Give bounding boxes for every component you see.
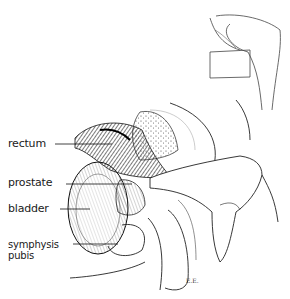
label-pubis: pubis: [8, 250, 34, 261]
examining-hand: [150, 156, 278, 262]
label-bladder: bladder: [8, 203, 49, 214]
label-rectum: rectum: [8, 138, 46, 149]
inset-figure: [210, 15, 280, 110]
prostate-shape: [116, 180, 145, 215]
label-symphysis: symphysis: [8, 239, 59, 250]
artist-signature: E.E.: [186, 277, 199, 284]
label-prostate: prostate: [8, 177, 52, 188]
